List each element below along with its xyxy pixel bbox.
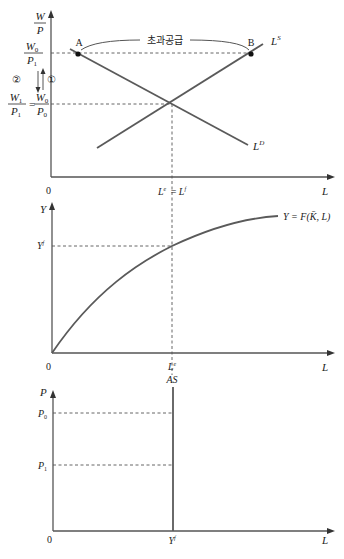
tick-w0-p1: W0 P1 bbox=[24, 40, 43, 68]
excess-supply-label: 초과공급 bbox=[147, 35, 183, 46]
panel-labor-market: W P W0 P1 ② ① W1 P1 = W0 P0 bbox=[8, 10, 331, 375]
p1-label: P1 bbox=[37, 460, 47, 472]
supply-curve-label: LS bbox=[270, 34, 281, 47]
y-axis-label-den: P bbox=[36, 24, 44, 36]
labor-supply-curve bbox=[97, 44, 263, 148]
origin-label: 0 bbox=[47, 534, 52, 545]
panel-aggregate-supply: P AS P0 P1 0 L Yf bbox=[37, 374, 331, 546]
excess-supply-brace-right bbox=[190, 40, 249, 50]
x-tick-le: Le bbox=[167, 361, 177, 372]
point-a-label: A bbox=[75, 37, 83, 48]
excess-supply-brace-left bbox=[81, 40, 140, 50]
as-label: AS bbox=[165, 374, 177, 385]
step-2-marker: ② bbox=[12, 74, 21, 85]
step-1-marker: ① bbox=[47, 74, 56, 85]
x-axis-label: L bbox=[321, 534, 328, 546]
origin-label: 0 bbox=[46, 361, 51, 372]
tick-w1-p1-equals-w0-p0: W1 P1 = W0 P0 bbox=[8, 91, 49, 119]
p0-label: P0 bbox=[37, 408, 47, 420]
x-axis-label: L bbox=[321, 361, 328, 373]
production-function-label: Y = F(K̄, L) bbox=[283, 211, 331, 223]
y-axis-label-num: W bbox=[35, 10, 45, 22]
demand-curve-label: LD bbox=[252, 139, 264, 152]
x-axis-label: L bbox=[321, 185, 328, 197]
point-b bbox=[248, 51, 253, 56]
labor-market-diagram: W P W0 P1 ② ① W1 P1 = W0 P0 bbox=[0, 0, 344, 559]
y-axis-label: P bbox=[39, 386, 47, 398]
point-a bbox=[75, 51, 80, 56]
svg-text:W1: W1 bbox=[10, 91, 23, 105]
origin-label: 0 bbox=[46, 185, 51, 196]
svg-text:P1: P1 bbox=[26, 54, 38, 68]
point-b-label: B bbox=[248, 37, 255, 48]
y-tick-yf: Yf bbox=[37, 240, 46, 251]
svg-text:W0: W0 bbox=[36, 91, 49, 105]
y-axis-label: Y bbox=[40, 203, 48, 215]
x-tick-yf: Yf bbox=[168, 535, 177, 546]
panel-production-function: Y Yf Y = F(K̄, L) 0 L Le bbox=[37, 203, 331, 373]
production-function-curve bbox=[52, 216, 278, 353]
x-tick-le-equals-lf: Le = Lf bbox=[157, 186, 187, 197]
labor-demand-curve bbox=[70, 49, 248, 145]
svg-text:P1: P1 bbox=[10, 105, 22, 119]
svg-text:W0: W0 bbox=[26, 40, 39, 54]
svg-text:P0: P0 bbox=[36, 105, 48, 119]
